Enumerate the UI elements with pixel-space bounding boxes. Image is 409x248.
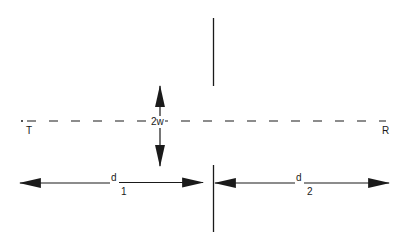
distance-2-symbol: d xyxy=(295,173,303,183)
distance-2-subscript: 2 xyxy=(306,187,314,197)
transmitter-label: T xyxy=(25,126,33,136)
distance-1-symbol: d xyxy=(110,173,118,183)
transmitter-point xyxy=(21,120,23,122)
aperture-diagram: T R 2w d 1 d 2 xyxy=(0,0,409,248)
distance-1-subscript: 1 xyxy=(120,187,128,197)
aperture-width-label: 2w xyxy=(150,117,165,127)
diagram-canvas xyxy=(0,0,409,248)
receiver-label: R xyxy=(381,126,390,136)
